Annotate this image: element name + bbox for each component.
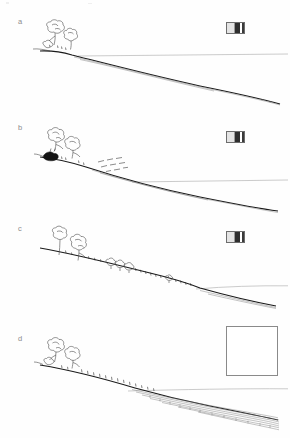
dash-mark <box>101 166 107 168</box>
panel-b-drawing <box>0 110 290 215</box>
tree-branch <box>73 153 80 158</box>
dash-mark <box>110 164 116 165</box>
tree-branch <box>49 36 55 41</box>
ground-tuft <box>62 47 63 50</box>
slope-shading <box>200 291 276 308</box>
ground-tuft <box>79 161 80 164</box>
tall-trees <box>52 226 86 260</box>
grass-tufts <box>66 251 192 287</box>
ground-tuft <box>62 365 63 368</box>
tree-canopy-detail <box>56 347 61 349</box>
ground-tuft <box>100 374 101 377</box>
ground-tuft <box>148 387 149 390</box>
dark-mass-detail <box>50 149 51 153</box>
tree-trunk <box>59 240 60 255</box>
tree-trunk <box>72 360 73 369</box>
panel-d: d <box>0 325 290 438</box>
slope-profile <box>40 248 276 306</box>
deposit-line <box>162 403 279 427</box>
ground-line-left <box>34 362 43 365</box>
slope-profile <box>40 365 278 420</box>
tree-canopy-detail <box>57 231 63 233</box>
ground-tuft <box>84 163 85 166</box>
tree-canopy-detail <box>78 245 84 247</box>
horizon-line <box>128 389 288 391</box>
ground-tuft <box>82 369 83 372</box>
shrub <box>106 258 116 265</box>
dash-mark <box>106 171 111 172</box>
tree-trunk <box>71 41 72 50</box>
ground-tuft <box>50 45 51 47</box>
ground-tuft <box>58 46 59 49</box>
tree-canopy-detail <box>68 32 74 34</box>
ground-tuft <box>130 382 131 385</box>
ground-tuft <box>106 375 107 378</box>
ground-line-left <box>34 154 43 157</box>
dashed-marks <box>98 158 128 172</box>
slope-shading <box>80 60 214 92</box>
tree-canopy-detail <box>53 342 60 344</box>
tree-trunk <box>55 142 57 151</box>
tree-canopy-detail <box>56 137 61 139</box>
ground-tuft <box>124 380 125 383</box>
horizon-line <box>196 286 288 289</box>
ground-tuft <box>118 378 119 381</box>
dark-mass <box>43 152 58 161</box>
tree-canopy <box>65 346 80 360</box>
tree-canopy-detail <box>55 28 61 30</box>
ground-tuft <box>142 385 143 388</box>
slope-profile <box>40 157 278 211</box>
tree-canopy-detail <box>53 132 60 134</box>
tree-trunk <box>55 352 57 362</box>
deposit-line <box>198 412 279 430</box>
panel-b: b <box>0 110 290 215</box>
figure-container: a <box>0 0 290 438</box>
tree-canopy-detail <box>70 141 77 143</box>
tree-canopy-detail <box>70 351 77 353</box>
ground-tuft <box>66 48 67 51</box>
ground-tuft <box>191 283 192 286</box>
ground-tuft <box>66 158 67 161</box>
dash-mark <box>116 158 122 159</box>
stippled-deposit <box>132 390 279 430</box>
panel-c: c <box>0 215 290 325</box>
ground-tuft <box>94 372 95 375</box>
ground-tuft <box>136 268 137 271</box>
dash-mark <box>123 167 128 168</box>
slope-shading <box>208 294 276 309</box>
tree-canopy <box>48 338 65 352</box>
tree-trunk <box>72 150 73 159</box>
ground-tuft <box>101 259 102 262</box>
deposit-line <box>150 399 279 425</box>
bush <box>43 40 53 47</box>
ground-tuft <box>68 367 69 370</box>
tree-trunk <box>54 33 55 45</box>
ground-tuft <box>136 384 137 387</box>
tree-canopy <box>48 128 65 142</box>
panel-d-drawing <box>0 325 290 438</box>
tree-canopy-detail <box>75 239 82 241</box>
tree-branch <box>56 145 63 150</box>
panel-a: a <box>0 0 290 110</box>
tree-canopy <box>65 136 80 150</box>
grass-tufts <box>62 365 155 391</box>
tree-canopy <box>47 20 65 33</box>
shrub <box>115 260 125 267</box>
tree-cluster <box>43 20 78 50</box>
ground-tuft <box>62 157 63 160</box>
dash-mark <box>107 159 113 160</box>
bush <box>44 357 54 364</box>
dash-mark <box>114 169 120 170</box>
ground-tuft <box>88 371 89 374</box>
tree-cluster <box>44 338 80 369</box>
panel-a-drawing <box>0 0 290 110</box>
tree-canopy <box>70 234 86 250</box>
deposit-line <box>142 395 279 422</box>
tree-branch <box>73 363 80 368</box>
tree-canopy <box>64 28 78 41</box>
dash-mark <box>98 161 104 163</box>
dark-patch <box>43 149 58 161</box>
panel-c-drawing <box>0 215 290 325</box>
horizon-line <box>78 54 288 56</box>
ground-tuft <box>112 377 113 380</box>
